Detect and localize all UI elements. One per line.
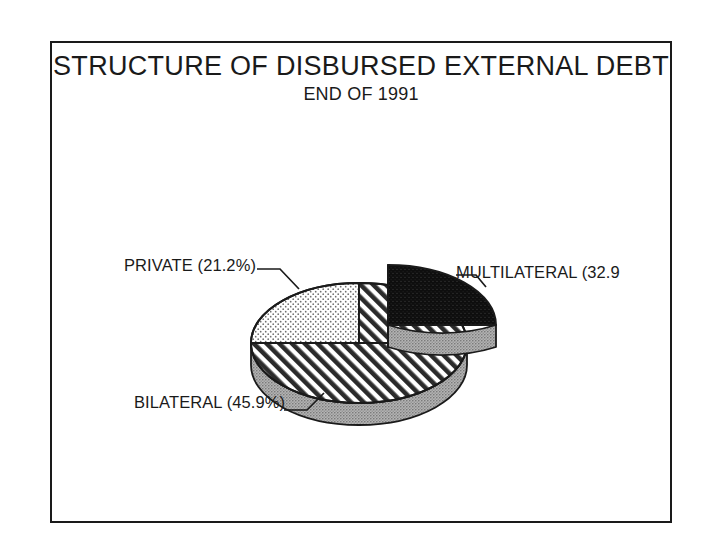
pie-chart-svg: [52, 43, 670, 521]
private-slice: [251, 283, 359, 343]
plot-area: PRIVATE (21.2%) BILATERAL (45.9%) MULTIL…: [52, 43, 670, 521]
chart-frame: STRUCTURE OF DISBURSED EXTERNAL DEBT END…: [50, 41, 672, 523]
private-leader-line: [257, 269, 299, 289]
slice-label-private: PRIVATE (21.2%): [124, 256, 256, 275]
slice-label-multilateral: MULTILATERAL (32.9: [456, 263, 620, 282]
slice-label-bilateral: BILATERAL (45.9%): [134, 393, 285, 412]
chart-figure: STRUCTURE OF DISBURSED EXTERNAL DEBT END…: [0, 0, 712, 557]
